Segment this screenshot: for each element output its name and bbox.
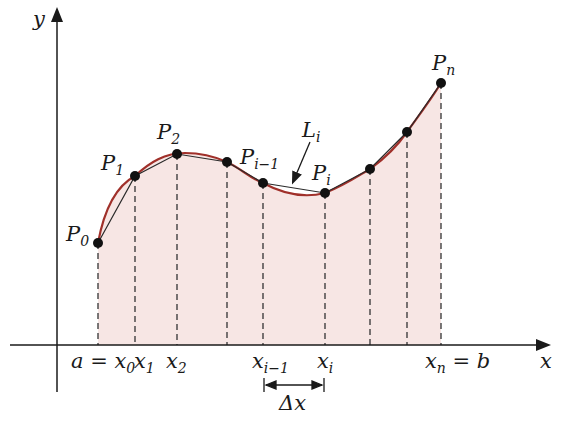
tick-x0: a = x0 — [71, 349, 135, 376]
y-axis-label: y — [32, 7, 46, 31]
tick-xi: xi — [317, 349, 333, 376]
arc-length-diagram: y x P0 P1 P2 Pi−1 Pi Pn Li a = x0 x1 x2 … — [0, 0, 561, 436]
delta-x-label: Δx — [278, 391, 306, 415]
tick-xi-minus-1: xi−1 — [252, 349, 289, 376]
tick-x2: x2 — [166, 349, 187, 376]
label-p0: P0 — [65, 222, 89, 249]
shaded-region — [98, 83, 441, 345]
label-p2: P2 — [156, 120, 180, 147]
li-pointer-arrow — [293, 142, 310, 182]
label-p1: P1 — [100, 151, 124, 178]
tick-xn: xn = b — [425, 349, 490, 376]
label-pn: Pn — [431, 51, 455, 78]
label-pi-minus-1: Pi−1 — [239, 145, 279, 172]
tick-x1: x1 — [134, 349, 155, 376]
delta-x-bracket — [264, 378, 324, 392]
x-axis-label: x — [540, 349, 552, 373]
label-li: Li — [301, 118, 320, 145]
label-pi: Pi — [311, 161, 331, 188]
